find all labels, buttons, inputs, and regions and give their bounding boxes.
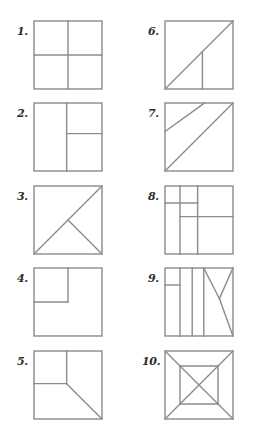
puzzle-label-3: 3.: [17, 191, 28, 202]
puzzle-item-5: 5.: [0, 0, 262, 439]
square-border: [34, 21, 102, 89]
puzzle-figure-6: [164, 20, 234, 90]
puzzle-item-2: 2.: [0, 0, 262, 439]
square-border: [34, 186, 102, 254]
division-line-9: [218, 404, 233, 419]
puzzle-figure-5: [33, 350, 103, 420]
division-line-1: [34, 186, 102, 254]
division-line-5: [179, 365, 217, 403]
puzzle-figure-1: [33, 20, 103, 90]
puzzle-item-8: 8.: [0, 0, 262, 439]
square-border: [165, 268, 233, 336]
division-line-7: [219, 298, 233, 335]
division-line-3: [66, 383, 101, 418]
puzzle-label-1: 1.: [17, 26, 28, 37]
division-line-6: [219, 268, 233, 299]
division-line-1: [165, 21, 233, 89]
puzzle-figure-10: [164, 350, 234, 420]
square-border: [34, 268, 102, 336]
puzzle-label-4: 4.: [17, 273, 28, 284]
puzzle-label-8: 8.: [148, 191, 159, 202]
division-line-5: [203, 268, 219, 299]
puzzle-label-5: 5.: [17, 356, 28, 367]
puzzle-label-9: 9.: [148, 273, 159, 284]
puzzle-item-4: 4.: [0, 0, 262, 439]
puzzle-item-6: 6.: [0, 0, 262, 439]
division-line-8: [218, 351, 233, 366]
puzzle-item-9: 9.: [0, 0, 262, 439]
puzzle-label-6: 6.: [148, 26, 159, 37]
worksheet-canvas: 1.2.3.4.5.6.7.8.9.10.: [0, 0, 262, 439]
division-line-10: [165, 404, 180, 419]
division-line-6: [179, 365, 217, 403]
puzzle-label-7: 7.: [148, 108, 159, 119]
puzzle-item-7: 7.: [0, 0, 262, 439]
division-line-2: [68, 220, 102, 254]
puzzle-figure-3: [33, 185, 103, 255]
puzzle-item-1: 1.: [0, 0, 262, 439]
division-line-7: [165, 351, 180, 366]
puzzle-figure-8: [164, 185, 234, 255]
puzzle-figure-9: [164, 267, 234, 337]
puzzle-item-3: 3.: [0, 0, 262, 439]
square-border: [34, 351, 102, 419]
division-line-2: [165, 103, 204, 132]
square-border: [165, 21, 233, 89]
puzzle-item-10: 10.: [0, 0, 262, 439]
division-line-1: [165, 103, 233, 171]
puzzle-figure-7: [164, 102, 234, 172]
puzzle-figure-2: [33, 102, 103, 172]
puzzle-figure-4: [33, 267, 103, 337]
square-border: [165, 103, 233, 171]
square-border: [165, 186, 233, 254]
square-border: [165, 351, 233, 419]
puzzle-label-10: 10.: [142, 356, 160, 367]
puzzle-label-2: 2.: [17, 108, 28, 119]
square-border: [34, 103, 102, 171]
